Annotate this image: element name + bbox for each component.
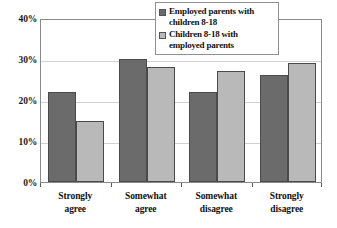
x-axis-category-label-line: Somewhat bbox=[181, 190, 252, 203]
x-axis-tick bbox=[252, 183, 253, 187]
legend-item-label: Employed parents with children 8-18 bbox=[169, 6, 254, 28]
x-axis-category-label-line: disagree bbox=[252, 203, 323, 216]
bar bbox=[76, 121, 104, 183]
bar bbox=[48, 92, 76, 182]
legend: Employed parents with children 8-18Child… bbox=[155, 2, 279, 55]
bar-group bbox=[41, 20, 112, 182]
y-axis-tick-label: 30% bbox=[3, 55, 37, 65]
y-axis: 0%10%20%30%40% bbox=[0, 0, 37, 228]
x-axis-tick bbox=[111, 183, 112, 187]
x-axis-tick bbox=[181, 183, 182, 187]
x-axis-tick bbox=[321, 183, 322, 187]
bar bbox=[189, 92, 217, 182]
y-axis-tick-label: 0% bbox=[3, 178, 37, 188]
bar bbox=[217, 71, 245, 182]
legend-item-label: Children 8-18 with employed parents bbox=[169, 29, 238, 51]
x-axis-ticks bbox=[40, 183, 322, 188]
x-axis-tick bbox=[40, 183, 41, 187]
x-axis-category-label-line: Somewhat bbox=[111, 190, 182, 203]
x-axis-category-label-line: agree bbox=[40, 203, 111, 216]
bar bbox=[288, 63, 316, 182]
y-axis-tick-label: 40% bbox=[3, 14, 37, 24]
bar bbox=[147, 67, 175, 182]
bar bbox=[260, 75, 288, 182]
bar-chart: 0%10%20%30%40% StronglyagreeSomewhatagre… bbox=[0, 0, 337, 228]
x-axis-category-label-line: agree bbox=[111, 203, 182, 216]
x-axis-category-label-line: disagree bbox=[181, 203, 252, 216]
x-axis: StronglyagreeSomewhatagreeSomewhatdisagr… bbox=[40, 190, 322, 224]
y-axis-tick-label: 10% bbox=[3, 137, 37, 147]
legend-swatch-icon bbox=[159, 32, 166, 39]
x-axis-category-label: Stronglydisagree bbox=[252, 190, 323, 215]
x-axis-category-label: Stronglyagree bbox=[40, 190, 111, 215]
legend-item: Children 8-18 with employed parents bbox=[159, 29, 274, 51]
x-axis-category-label: Somewhatdisagree bbox=[181, 190, 252, 215]
x-axis-category-label-line: Strongly bbox=[40, 190, 111, 203]
x-axis-category-label-line: Strongly bbox=[252, 190, 323, 203]
bar bbox=[119, 59, 147, 182]
legend-swatch-icon bbox=[159, 9, 166, 16]
x-axis-category-label: Somewhatagree bbox=[111, 190, 182, 215]
y-axis-tick-label: 20% bbox=[3, 96, 37, 106]
legend-item: Employed parents with children 8-18 bbox=[159, 6, 274, 28]
